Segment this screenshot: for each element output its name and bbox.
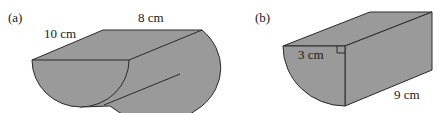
figure-b-label: (b) (255, 10, 270, 25)
figure-b: (b) 3 cm 9 cm (255, 10, 432, 106)
length-label: 8 cm (138, 10, 164, 25)
diameter-label: 10 cm (44, 26, 76, 41)
diagram-canvas: (a) 10 cm 8 cm (b) 3 cm 9 cm (0, 0, 439, 113)
figure-a-label: (a) (8, 10, 22, 25)
figure-a: (a) 10 cm 8 cm (8, 10, 221, 113)
radius-label: 3 cm (298, 47, 324, 62)
length-label-b: 9 cm (394, 87, 420, 102)
